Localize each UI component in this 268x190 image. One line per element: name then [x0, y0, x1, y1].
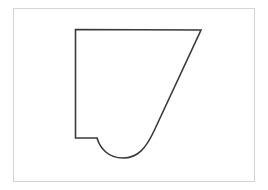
diagram-canvas: [0, 0, 268, 190]
geometric-shape-outline: [76, 30, 202, 159]
